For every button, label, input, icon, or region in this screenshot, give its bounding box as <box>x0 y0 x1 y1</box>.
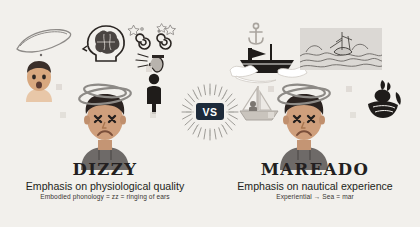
decor-square <box>146 66 152 72</box>
decor-square <box>346 86 352 92</box>
spiral-stars-icon <box>128 23 173 53</box>
term-right: MAREADO <box>210 161 420 178</box>
dizzy-character <box>268 78 340 170</box>
ear-ringing-icon <box>134 52 170 74</box>
stormy-sea-engraving-icon <box>300 28 382 70</box>
subtitle-left: Emphasis on physiological quality <box>0 180 210 192</box>
dizzy-character <box>69 78 141 170</box>
motion-squiggle-icon <box>14 24 76 58</box>
ship-figurehead-icon <box>362 78 404 122</box>
vs-badge: VS <box>196 103 224 120</box>
comparison-slide: DIZZY Emphasis on physiological quality … <box>0 0 420 227</box>
panel-mareado: MAREADO Emphasis on nautical experience … <box>210 0 420 227</box>
term-left: DIZZY <box>0 161 210 178</box>
decor-square <box>150 112 156 118</box>
standing-person-icon <box>144 73 164 115</box>
vs-divider: VS <box>181 83 239 141</box>
head-brain-icon <box>82 22 127 64</box>
decor-square <box>60 112 66 118</box>
subtitle-right: Emphasis on nautical experience <box>210 180 420 192</box>
decor-square <box>350 112 356 118</box>
worried-face-icon <box>22 60 56 102</box>
decor-square <box>56 84 62 90</box>
panel-dizzy: DIZZY Emphasis on physiological quality … <box>0 0 210 227</box>
gloss-right: Experiential → Sea = mar <box>210 193 420 201</box>
gloss-left: Embodied phonology = zz = ringing of ear… <box>0 193 210 201</box>
